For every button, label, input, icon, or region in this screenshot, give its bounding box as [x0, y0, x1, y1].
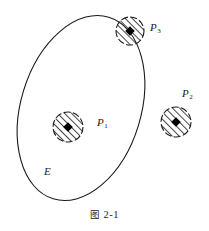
figure-drawing-canvas: [0, 0, 209, 231]
figure-caption-cjk: 图: [90, 209, 101, 220]
figure-caption: 图 2-1: [0, 207, 209, 221]
label-p1-letter: P: [97, 116, 104, 128]
label-p2-subscript: 2: [189, 93, 193, 101]
label-p2: P2: [182, 88, 193, 99]
label-p3-letter: P: [150, 21, 157, 33]
label-p2-letter: P: [182, 87, 189, 99]
label-p1: P1: [97, 117, 108, 128]
label-region-e: E: [44, 166, 51, 177]
point-neighborhood-p1: [53, 112, 83, 142]
label-p3-subscript: 3: [157, 27, 161, 35]
figure-container: P1 P2 P3 E 图 2-1: [0, 0, 209, 231]
figure-caption-number: 2-1: [104, 209, 120, 220]
label-p3: P3: [150, 22, 161, 33]
label-p1-subscript: 1: [104, 122, 108, 130]
point-neighborhood-p2: [161, 107, 191, 137]
point-neighborhood-p3: [0, 0, 166, 216]
